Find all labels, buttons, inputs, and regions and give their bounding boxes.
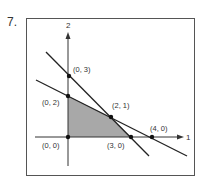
figure-frame — [27, 19, 195, 176]
point-label-0-3: (0, 3) — [73, 65, 91, 74]
point-label-4-0: (4, 0) — [150, 124, 168, 133]
point-4-0 — [150, 135, 154, 139]
point-label-0-2: (0, 2) — [42, 98, 60, 107]
point-label-2-1: (2, 1) — [112, 101, 130, 110]
point-label-0-0: (0, 0) — [42, 141, 60, 150]
point-2-1 — [109, 115, 113, 119]
y-axis-arrow-icon — [66, 32, 71, 39]
point-label-3-0: (3, 0) — [107, 141, 125, 150]
x-axis-arrow-icon — [177, 135, 184, 140]
point-0-3 — [67, 74, 71, 78]
x-axis-label: 1 — [186, 133, 191, 142]
steep-constraint-line — [46, 52, 149, 156]
point-3-0 — [129, 135, 133, 139]
y-axis-label: 2 — [66, 21, 71, 30]
feasible-region-diagram: 2 1 (0, 3) (0, 2) (2, 1) (4, 0) (0, 0) (… — [0, 0, 205, 189]
point-0-0 — [66, 135, 70, 139]
point-0-2 — [66, 94, 70, 98]
